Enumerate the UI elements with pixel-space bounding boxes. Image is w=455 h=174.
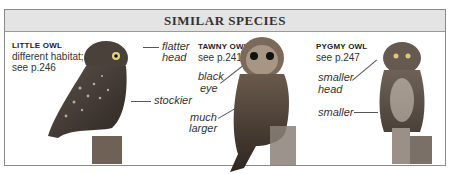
little-owl-illustration — [44, 36, 144, 164]
annotation-black-eye-1: black — [198, 70, 224, 82]
leader-line — [143, 47, 159, 48]
section-header: SIMILAR SPECIES — [5, 10, 445, 32]
pygmy-owl-illustration — [370, 40, 440, 164]
tawny-owl-illustration — [222, 34, 302, 174]
annotation-black-eye-2: eye — [200, 82, 218, 94]
annotation-stockier: stockier — [154, 94, 192, 106]
annotation-smaller-head-2: head — [318, 83, 342, 95]
annotation-smaller-head-1: smaller — [318, 71, 353, 83]
pygmy-owl-desc-1: see p.247 — [316, 52, 360, 63]
section-title: SIMILAR SPECIES — [164, 13, 286, 29]
annotation-smaller: smaller — [318, 106, 353, 118]
species-name-pygmy-owl: PYGMY OWL — [316, 42, 367, 51]
leader-line — [131, 101, 151, 102]
annotation-flatter-head-2: head — [162, 51, 186, 63]
annotation-much-larger-2: larger — [189, 122, 217, 134]
